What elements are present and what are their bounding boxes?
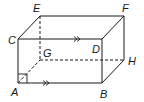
- vertex-label-e: E: [33, 2, 41, 14]
- prism-diagram: E F C D G H A B: [0, 0, 144, 102]
- vertex-label-g: G: [43, 47, 52, 59]
- edge-df: [102, 16, 124, 39]
- vertex-label-b: B: [100, 88, 107, 100]
- vertex-label-h: H: [128, 55, 136, 67]
- vertex-label-f: F: [122, 2, 130, 14]
- vertex-label-a: A: [10, 86, 18, 98]
- vertex-label-c: C: [8, 34, 16, 46]
- edge-bh: [102, 60, 124, 83]
- edge-ce: [18, 16, 40, 39]
- vertex-label-d: D: [92, 43, 100, 55]
- hidden-edge-ag: [18, 60, 40, 83]
